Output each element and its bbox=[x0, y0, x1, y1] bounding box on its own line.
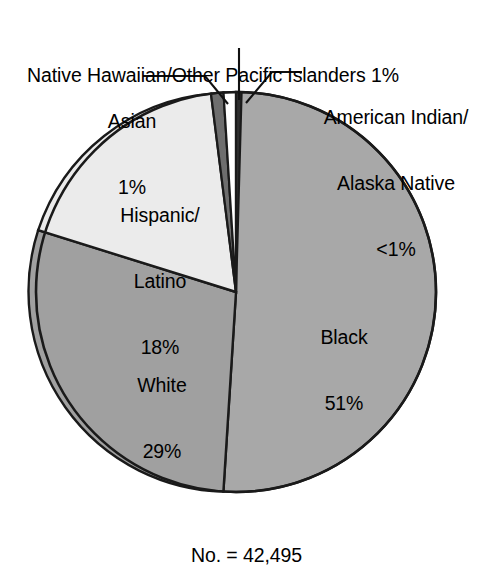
slice-label-asian-name: Asian bbox=[92, 110, 172, 132]
slice-label-black: Black 51% bbox=[296, 282, 392, 458]
slice-label-hispanic-name1: Hispanic/ bbox=[104, 204, 216, 226]
slice-label-white: White 29% bbox=[114, 330, 210, 506]
slice-label-american-indian-name1: American Indian/ bbox=[306, 106, 486, 128]
slice-label-black-value: 51% bbox=[296, 392, 392, 414]
chart-total-text: No. = 42,495 bbox=[0, 544, 493, 566]
slice-label-white-name: White bbox=[114, 374, 210, 396]
slice-label-american-indian-value: <1% bbox=[306, 238, 486, 260]
slice-label-black-name: Black bbox=[296, 326, 392, 348]
slice-label-hispanic-name2: Latino bbox=[104, 270, 216, 292]
chart-total-caption: No. = 42,495 bbox=[0, 500, 493, 569]
slice-label-american-indian-name2: Alaska Native bbox=[306, 172, 486, 194]
slice-label-american-indian: American Indian/ Alaska Native <1% bbox=[306, 62, 486, 304]
slice-label-white-value: 29% bbox=[114, 440, 210, 462]
